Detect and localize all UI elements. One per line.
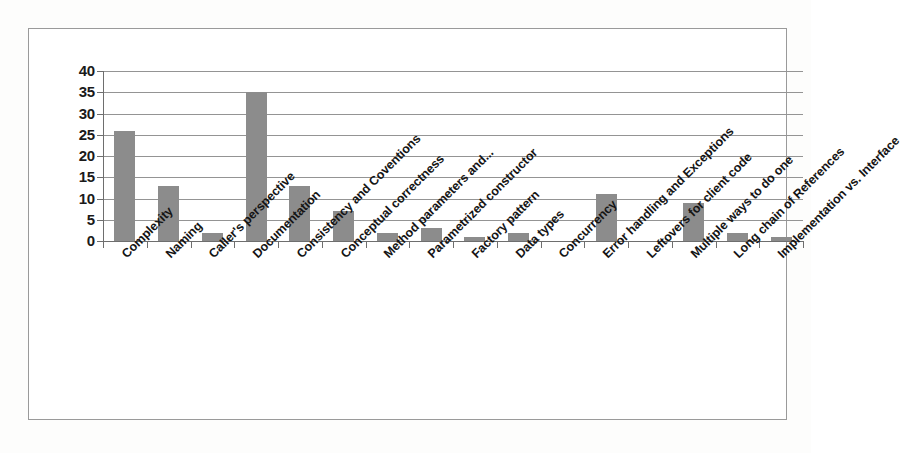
y-tick-label-5: 5 — [51, 212, 95, 227]
y-tick-label-35: 35 — [51, 84, 95, 99]
bar — [683, 203, 704, 241]
bar — [421, 228, 442, 241]
bar — [596, 194, 617, 241]
bar-series — [103, 71, 803, 241]
x-tick — [322, 241, 323, 248]
x-tick — [103, 241, 104, 248]
y-axis-tick-labels: 0510152025303540 — [47, 29, 95, 419]
x-tick — [803, 241, 804, 248]
y-tick-label-20: 20 — [51, 148, 95, 163]
x-tick — [716, 241, 717, 248]
bar — [333, 211, 354, 241]
x-tick — [497, 241, 498, 248]
y-tick-label-0: 0 — [51, 233, 95, 248]
x-tick — [147, 241, 148, 248]
x-tick — [453, 241, 454, 248]
x-tick — [278, 241, 279, 248]
x-tick — [672, 241, 673, 248]
y-tick-label-40: 40 — [51, 63, 95, 78]
bar — [289, 186, 310, 241]
x-tick — [191, 241, 192, 248]
bar — [377, 233, 398, 242]
x-tick — [366, 241, 367, 248]
bar — [508, 233, 529, 242]
bar — [114, 131, 135, 242]
bar — [246, 92, 267, 241]
y-tick-label-15: 15 — [51, 169, 95, 184]
y-tick-label-30: 30 — [51, 106, 95, 121]
y-tick-label-10: 10 — [51, 191, 95, 206]
x-tick — [759, 241, 760, 248]
x-tick — [541, 241, 542, 248]
bar — [202, 233, 223, 242]
x-tick — [584, 241, 585, 248]
x-tick — [234, 241, 235, 248]
x-tick — [409, 241, 410, 248]
y-tick-label-25: 25 — [51, 127, 95, 142]
x-tick — [628, 241, 629, 248]
bar — [158, 186, 179, 241]
chart-frame: 0510152025303540 ComplexityNamingCaller'… — [28, 28, 787, 420]
bar — [727, 233, 748, 242]
